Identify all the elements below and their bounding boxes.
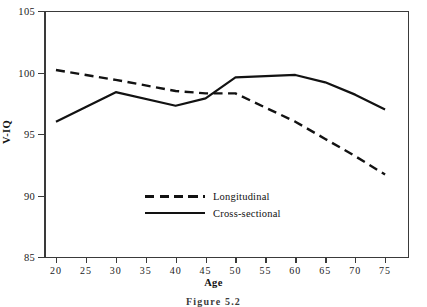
legend-item-longitudinal: Longitudinal	[145, 188, 320, 205]
series-line-cross-sectional	[56, 75, 385, 122]
legend-label-longitudinal: Longitudinal	[213, 188, 270, 205]
x-axis-title: Age	[0, 277, 427, 288]
y-tick-label-90: 90	[24, 190, 35, 201]
x-tick-label-45: 45	[200, 265, 212, 276]
x-tick-label-25: 25	[80, 265, 92, 276]
plot-area: 85 90 95 100 105 20 25 30	[44, 11, 409, 258]
chart-legend: Longitudinal Cross-sectional	[145, 188, 320, 222]
x-tick-label-55: 55	[259, 265, 271, 276]
x-tick-label-40: 40	[170, 265, 182, 276]
figure-caption: Figure 5.2	[0, 296, 427, 307]
legend-item-cross-sectional: Cross-sectional	[145, 205, 320, 222]
x-tick-label-20: 20	[50, 265, 62, 276]
x-tick-label-50: 50	[229, 265, 241, 276]
y-tick-label-85: 85	[24, 252, 35, 263]
x-tick-label-75: 75	[379, 265, 391, 276]
x-tick-label-60: 60	[289, 265, 301, 276]
y-tick-label-105: 105	[18, 6, 35, 17]
legend-label-cross-sectional: Cross-sectional	[213, 205, 281, 222]
legend-swatch-dashed-icon	[145, 195, 205, 198]
legend-swatch-solid-icon	[145, 212, 205, 214]
x-tick-label-65: 65	[319, 265, 331, 276]
x-tick-label-70: 70	[349, 265, 361, 276]
y-tick-label-100: 100	[18, 67, 35, 78]
x-tick-label-30: 30	[110, 265, 122, 276]
x-tick-label-35: 35	[140, 265, 152, 276]
y-axis-title: V-IQ	[1, 120, 12, 144]
y-tick-label-95: 95	[24, 129, 35, 140]
